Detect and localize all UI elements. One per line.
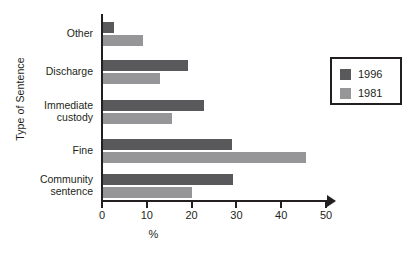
category-label: Discharge <box>0 66 93 78</box>
legend-label-1996: 1996 <box>358 69 382 80</box>
legend-swatch-icon-1996 <box>340 69 351 80</box>
x-axis-arrow-icon <box>327 195 336 207</box>
bar-1996 <box>103 139 232 150</box>
bar-1981 <box>103 73 160 84</box>
category-label-line: Other <box>0 28 93 40</box>
x-axis-tick <box>325 202 327 208</box>
bar-1981 <box>103 35 143 46</box>
category-label: Fine <box>0 145 93 157</box>
x-axis-tick <box>191 202 193 208</box>
category-label: Immediatecustody <box>0 100 93 123</box>
bar-1996 <box>103 22 114 33</box>
bar-1981 <box>103 152 306 163</box>
bar-1996 <box>103 174 233 185</box>
legend: 1996 1981 <box>330 57 402 105</box>
category-label-line: Community <box>0 174 93 186</box>
x-axis-title-text: % <box>149 228 159 240</box>
x-axis-title: % <box>0 228 412 240</box>
bar-1996 <box>103 100 204 111</box>
x-axis-tick-label: 30 <box>216 209 256 221</box>
category-label: Communitysentence <box>0 174 93 197</box>
x-axis-tick-label: 40 <box>261 209 301 221</box>
x-axis-tick <box>101 202 103 208</box>
legend-item-1981: 1981 <box>340 84 400 103</box>
category-label-line: sentence <box>0 186 93 198</box>
x-axis-tick-label: 0 <box>82 209 122 221</box>
x-axis-tick <box>146 202 148 208</box>
bar-1981 <box>103 113 172 124</box>
x-axis-tick-label: 20 <box>172 209 212 221</box>
category-label: Other <box>0 28 93 40</box>
legend-label-1981: 1981 <box>358 88 382 99</box>
bar-1981 <box>103 187 192 198</box>
x-axis-line <box>101 200 329 202</box>
x-axis-tick <box>235 202 237 208</box>
x-axis-tick-label: 10 <box>127 209 167 221</box>
legend-item-1996: 1996 <box>340 65 400 84</box>
x-axis-tick <box>280 202 282 208</box>
category-label-line: custody <box>0 112 93 124</box>
category-label-line: Immediate <box>0 100 93 112</box>
bar-chart: Type of Sentence 01020304050 OtherDischa… <box>0 0 412 257</box>
legend-swatch-icon-1981 <box>340 88 351 99</box>
category-label-line: Fine <box>0 145 93 157</box>
bar-1996 <box>103 60 188 71</box>
x-axis-tick-label: 50 <box>306 209 346 221</box>
category-label-line: Discharge <box>0 66 93 78</box>
